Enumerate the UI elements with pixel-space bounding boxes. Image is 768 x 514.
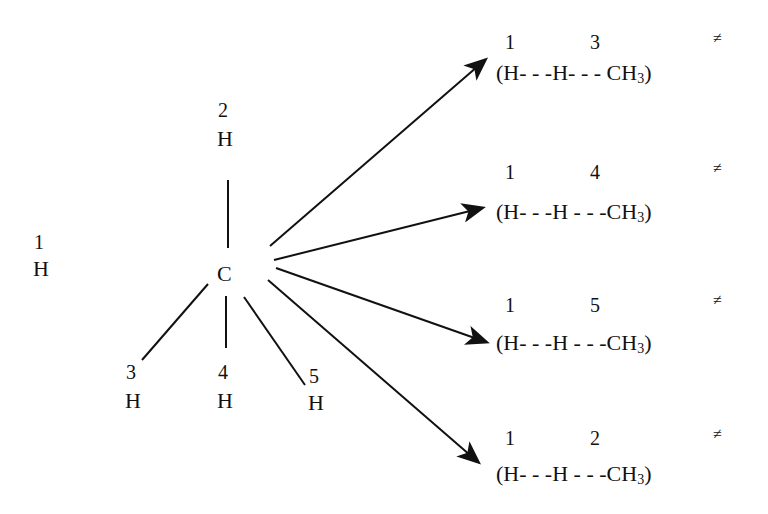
arrow-ts-3 [276, 268, 486, 342]
transition-state-mark: ≠ [713, 426, 722, 442]
ts-label-b: 2 [590, 428, 600, 448]
bond-lines [0, 0, 768, 514]
ts-label-a: 1 [505, 295, 515, 315]
transition-state-mark: ≠ [713, 292, 722, 308]
ts-formula: (H- - -H - - -CH3) [496, 332, 651, 356]
atom-5-symbol: H [308, 392, 324, 414]
bond-c-h5 [244, 297, 305, 385]
atom-3-number: 3 [126, 362, 136, 382]
ts-formula: (H- - -H - - -CH3) [496, 201, 651, 225]
transition-state-mark: ≠ [713, 160, 722, 176]
atom-1-number: 1 [34, 232, 44, 252]
atom-1-symbol: H [33, 258, 49, 280]
ts-formula: (H- - -H- - - CH3) [496, 62, 651, 86]
atom-3-symbol: H [125, 390, 141, 412]
arrow-ts-1 [270, 60, 485, 246]
ts-label-a: 1 [505, 162, 515, 182]
carbon-atom: C [217, 263, 232, 285]
ts-label-a: 1 [505, 32, 515, 52]
atom-2-symbol: H [217, 128, 233, 150]
atom-2-number: 2 [218, 100, 228, 120]
ts-label-b: 3 [590, 32, 600, 52]
atom-5-number: 5 [309, 366, 319, 386]
ts-formula: (H- - -H - - -CH3) [496, 463, 651, 487]
arrow-ts-4 [268, 280, 478, 462]
bond-c-h3 [142, 284, 208, 360]
transition-state-mark: ≠ [713, 30, 722, 46]
atom-4-number: 4 [218, 362, 228, 382]
atom-4-symbol: H [217, 390, 233, 412]
ts-label-b: 4 [590, 162, 600, 182]
ts-label-a: 1 [505, 428, 515, 448]
ts-label-b: 5 [590, 295, 600, 315]
